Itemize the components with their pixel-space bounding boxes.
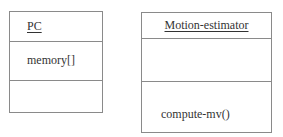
class-box-pc: PC memory[]	[9, 11, 103, 113]
class-box-motion-estimator: Motion-estimator compute-mv()	[141, 12, 272, 133]
class-name: PC	[27, 19, 42, 33]
class-name-compartment: PC	[10, 12, 102, 41]
attributes-compartment	[142, 38, 271, 81]
operation: compute-mv()	[161, 107, 230, 121]
operations-compartment: compute-mv()	[142, 81, 271, 132]
operations-compartment	[10, 80, 102, 112]
attribute: memory[]	[27, 53, 75, 67]
class-name-compartment: Motion-estimator	[142, 13, 271, 38]
class-name: Motion-estimator	[142, 18, 271, 32]
attributes-compartment: memory[]	[10, 41, 102, 80]
